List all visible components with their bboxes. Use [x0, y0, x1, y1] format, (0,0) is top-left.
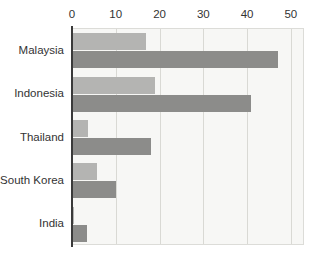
x-tick-label-10: 10 — [109, 8, 122, 21]
y-category-label-india: India — [39, 217, 64, 230]
y-axis-category-labels: MalaysiaIndonesiaThailandSouth KoreaIndi… — [0, 28, 68, 245]
y-category-label-thailand: Thailand — [20, 130, 64, 143]
bar-india-series-2 — [72, 225, 87, 242]
bar-south-korea-series-2 — [72, 181, 116, 198]
x-tick-label-30: 30 — [197, 8, 210, 21]
x-tick-label-20: 20 — [153, 8, 166, 21]
y-category-label-malaysia: Malaysia — [19, 43, 64, 56]
bar-thailand-series-1 — [72, 120, 88, 137]
plot-area — [72, 28, 304, 245]
x-tick-label-50: 50 — [284, 8, 297, 21]
y-category-label-south-korea: South Korea — [0, 173, 64, 186]
x-axis-tick-labels: 01020304050 — [0, 8, 322, 26]
y-category-label-indonesia: Indonesia — [14, 87, 64, 100]
bar-malaysia-series-2 — [72, 51, 278, 68]
bar-chart: 01020304050 MalaysiaIndonesiaThailandSou… — [0, 0, 322, 254]
y-axis-line — [71, 26, 73, 247]
bar-malaysia-series-1 — [72, 33, 146, 50]
bars-layer — [72, 29, 303, 244]
bar-indonesia-series-2 — [72, 95, 251, 112]
bar-south-korea-series-1 — [72, 163, 97, 180]
bar-indonesia-series-1 — [72, 77, 155, 94]
bar-thailand-series-2 — [72, 138, 151, 155]
x-tick-label-40: 40 — [241, 8, 254, 21]
x-tick-label-0: 0 — [69, 8, 75, 21]
